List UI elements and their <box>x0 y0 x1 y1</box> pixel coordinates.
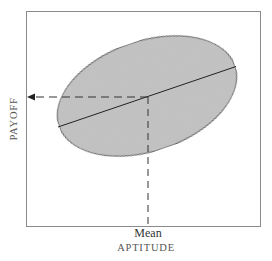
y-axis-label: PAYOFF <box>8 97 19 140</box>
scatter-ellipse <box>41 14 253 179</box>
aptitude-payoff-diagram <box>0 0 272 261</box>
x-axis-label: APTITUDE <box>117 242 175 253</box>
mean-label: Mean <box>134 226 161 241</box>
arrowhead-icon <box>27 94 35 101</box>
